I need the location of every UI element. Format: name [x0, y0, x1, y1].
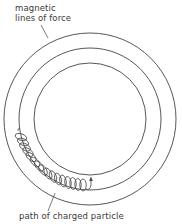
field-lines-label: magnetic lines of force [15, 3, 71, 23]
diagram-canvas [0, 0, 182, 224]
middle-field-line [19, 48, 161, 190]
inner-field-line [34, 63, 146, 175]
particle-path-label: path of charged particle [19, 211, 124, 221]
magnetic-field-diagram: magnetic lines of force path of charged … [0, 0, 182, 224]
helix-particle-path [14, 128, 91, 191]
field-label-leader-line [41, 25, 48, 38]
direction-arrow-icon [89, 177, 93, 182]
field-lines-label-line2: lines of force [15, 13, 71, 23]
field-lines-label-line1: magnetic [15, 3, 71, 13]
